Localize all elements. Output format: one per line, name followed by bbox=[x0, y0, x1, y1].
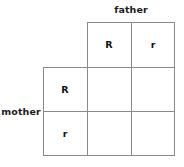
father-axis-label: father bbox=[87, 4, 175, 15]
father-allele-cell-0: R bbox=[87, 22, 131, 67]
offspring-cell-0-1 bbox=[131, 67, 175, 111]
offspring-cell-0-0 bbox=[87, 67, 131, 111]
punnett-square-figure: father mother R r R r bbox=[0, 0, 184, 167]
mother-allele-cell-1: r bbox=[43, 111, 87, 156]
offspring-cell-1-0 bbox=[87, 111, 131, 156]
father-allele-cell-1: r bbox=[131, 22, 175, 67]
offspring-cell-1-1 bbox=[131, 111, 175, 156]
mother-allele-cell-0: R bbox=[43, 67, 87, 111]
mother-axis-label: mother bbox=[0, 106, 42, 117]
